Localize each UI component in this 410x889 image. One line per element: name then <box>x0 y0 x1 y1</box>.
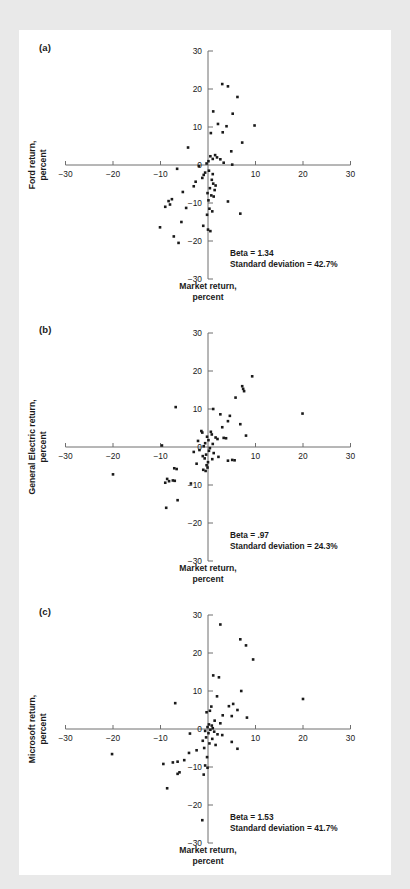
data-point <box>236 709 239 712</box>
data-point <box>202 469 205 472</box>
data-point <box>216 733 219 736</box>
data-point <box>221 83 224 86</box>
data-point <box>209 728 212 731</box>
tick-label: 30 <box>193 328 203 338</box>
data-point <box>176 499 179 502</box>
data-point <box>219 722 222 725</box>
tick-label: 20 <box>298 451 308 461</box>
data-point <box>205 162 208 165</box>
data-point <box>225 125 228 128</box>
data-point <box>211 179 214 182</box>
data-point <box>165 507 168 510</box>
data-point <box>177 242 180 245</box>
data-point <box>217 456 220 459</box>
data-point <box>212 182 215 185</box>
tick-label: 20 <box>193 366 203 376</box>
data-point <box>213 730 216 733</box>
data-point <box>203 747 206 750</box>
tick-label: −20 <box>188 800 203 810</box>
data-point <box>208 169 211 172</box>
data-point <box>204 764 207 767</box>
data-point <box>230 741 233 744</box>
data-point <box>242 388 245 391</box>
data-point <box>180 221 183 224</box>
data-point <box>185 207 188 210</box>
data-point <box>176 760 179 763</box>
tick-label: 10 <box>193 122 203 132</box>
tick-label: −20 <box>188 236 203 246</box>
panel-a-x-axis-label: Market return, percent <box>153 281 263 302</box>
data-point <box>208 723 211 726</box>
data-point <box>206 466 209 469</box>
tick-label: 30 <box>193 46 203 56</box>
data-point <box>204 730 207 733</box>
tick-label: −30 <box>58 169 73 179</box>
data-point <box>192 185 195 188</box>
tick-label: −20 <box>188 518 203 528</box>
data-point <box>219 623 222 626</box>
data-point <box>230 715 233 718</box>
data-point <box>211 210 214 213</box>
data-point <box>212 195 215 198</box>
data-point <box>203 457 206 460</box>
data-point <box>240 690 243 693</box>
data-point <box>222 437 225 440</box>
data-point <box>216 156 219 159</box>
panel-c: (c) Microsoft return, percent −30−20−101… <box>19 594 391 876</box>
data-point <box>212 674 215 677</box>
data-point <box>251 375 254 378</box>
data-point <box>302 698 305 701</box>
data-point <box>253 124 256 127</box>
data-point <box>221 426 224 429</box>
data-point <box>221 714 224 717</box>
data-point <box>176 168 179 171</box>
data-point <box>206 756 209 759</box>
data-point <box>211 458 214 461</box>
data-point <box>205 464 208 467</box>
tick-label: 20 <box>193 648 203 658</box>
data-point <box>245 434 248 437</box>
data-point <box>161 444 164 447</box>
data-point <box>239 638 242 641</box>
data-point <box>211 738 214 741</box>
tick-label: 10 <box>193 404 203 414</box>
data-point <box>227 459 230 462</box>
data-point <box>207 439 210 442</box>
tick-label: −10 <box>153 169 168 179</box>
data-point <box>192 451 195 454</box>
data-point <box>216 695 219 698</box>
data-point <box>214 744 217 747</box>
data-point <box>214 184 217 187</box>
data-point <box>159 226 162 229</box>
data-point <box>204 470 207 473</box>
data-point <box>194 180 197 183</box>
data-point <box>212 408 215 411</box>
tick-label: −10 <box>153 451 168 461</box>
data-point <box>219 413 222 416</box>
data-point <box>206 766 209 769</box>
data-point <box>205 711 208 714</box>
data-point <box>241 385 244 388</box>
data-point <box>211 173 214 176</box>
data-point <box>207 160 210 163</box>
data-point <box>231 459 234 462</box>
data-point <box>195 749 198 752</box>
panel-b-x-axis-label: Market return, percent <box>153 563 263 584</box>
data-point <box>205 736 208 739</box>
data-point <box>175 468 178 471</box>
data-point <box>183 759 186 762</box>
data-point <box>171 198 174 201</box>
data-point <box>173 467 176 470</box>
data-point <box>206 192 209 195</box>
panel-c-beta-label: Beta = 1.53 <box>230 812 274 823</box>
data-point <box>173 480 176 483</box>
tick-label: 20 <box>298 169 308 179</box>
data-point <box>197 440 200 443</box>
data-point <box>207 228 210 231</box>
tick-label: −10 <box>188 480 203 490</box>
data-point <box>208 207 211 210</box>
data-point <box>227 200 230 203</box>
tick-label: 30 <box>193 610 203 620</box>
data-point <box>229 415 232 418</box>
data-point <box>202 445 205 448</box>
